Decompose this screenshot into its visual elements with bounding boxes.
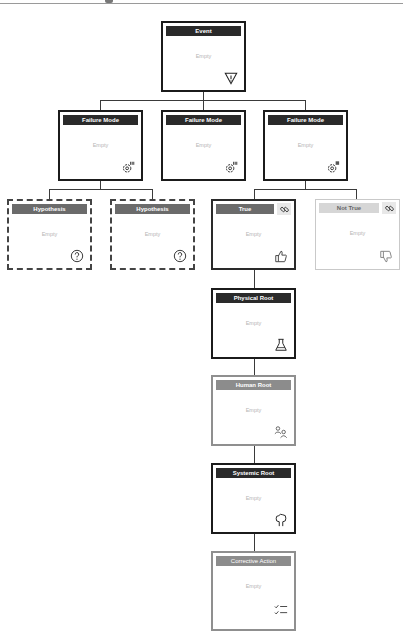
node-title: Systemic Root: [216, 468, 291, 478]
node-title: Physical Root: [216, 293, 291, 303]
connector: [203, 100, 204, 110]
connector: [254, 270, 255, 288]
node-body: Empty: [213, 231, 294, 237]
node-body: Empty: [213, 320, 294, 326]
gear-list-icon: [121, 160, 135, 174]
node-body: Empty: [213, 495, 294, 501]
failure-mode-node[interactable]: Failure Mode Empty: [263, 110, 348, 181]
node-title: Corrective Action: [216, 556, 291, 566]
people-icon: [274, 425, 288, 439]
node-title: Failure Mode: [63, 115, 138, 125]
hypothesis-node[interactable]: Hypothesis Empty: [110, 199, 195, 270]
node-body: Empty: [265, 142, 346, 148]
node-body: Empty: [316, 230, 399, 236]
connector: [254, 445, 255, 463]
gear-list-icon: [224, 160, 238, 174]
link-button[interactable]: [277, 203, 291, 215]
node-body: Empty: [163, 53, 244, 59]
corrective-action-node[interactable]: Corrective Action Empty: [211, 551, 296, 631]
node-body: Empty: [60, 142, 141, 148]
failure-mode-node[interactable]: Failure Mode Empty: [58, 110, 143, 181]
node-title: Failure Mode: [268, 115, 343, 125]
node-body: Empty: [213, 583, 294, 589]
true-node[interactable]: True Empty: [211, 199, 296, 270]
physical-root-node[interactable]: Physical Root Empty: [211, 288, 296, 359]
link-icon: [279, 204, 290, 215]
node-title: Hypothesis: [12, 204, 87, 214]
event-node[interactable]: Event Empty: [161, 21, 246, 92]
node-title: True: [216, 204, 274, 214]
connector: [305, 100, 306, 110]
connector: [254, 358, 255, 375]
node-body: Empty: [9, 231, 90, 237]
connector: [356, 189, 357, 199]
node-title: Event: [166, 26, 241, 36]
node-title: Human Root: [216, 380, 291, 390]
gear-list-icon: [326, 160, 340, 174]
connector: [49, 189, 50, 199]
top-divider: [0, 3, 403, 4]
node-title: Not True: [319, 203, 379, 213]
connector: [254, 189, 255, 199]
link-button[interactable]: [382, 202, 396, 214]
connector: [100, 100, 101, 110]
node-title: Failure Mode: [166, 115, 241, 125]
flask-icon: [274, 338, 288, 352]
tree-icon: [274, 513, 288, 527]
connector: [254, 189, 357, 190]
not-true-node[interactable]: Not True Empty: [315, 199, 400, 270]
hypothesis-node[interactable]: Hypothesis Empty: [7, 199, 92, 270]
thumbs-up-icon: [274, 249, 288, 263]
top-handle: [105, 0, 113, 3]
node-body: Empty: [213, 407, 294, 413]
connector: [152, 189, 153, 199]
human-root-node[interactable]: Human Root Empty: [211, 375, 296, 446]
node-body: Empty: [112, 231, 193, 237]
question-circle-icon: [173, 249, 187, 263]
checklist-icon: [274, 603, 288, 617]
connector: [49, 189, 153, 190]
node-body: Empty: [163, 142, 244, 148]
connector: [254, 533, 255, 551]
node-title: Hypothesis: [115, 204, 190, 214]
thumbs-down-icon: [379, 250, 393, 264]
failure-mode-node[interactable]: Failure Mode Empty: [161, 110, 246, 181]
question-circle-icon: [70, 249, 84, 263]
link-icon: [384, 203, 395, 214]
warning-triangle-icon: [224, 71, 238, 85]
systemic-root-node[interactable]: Systemic Root Empty: [211, 463, 296, 534]
